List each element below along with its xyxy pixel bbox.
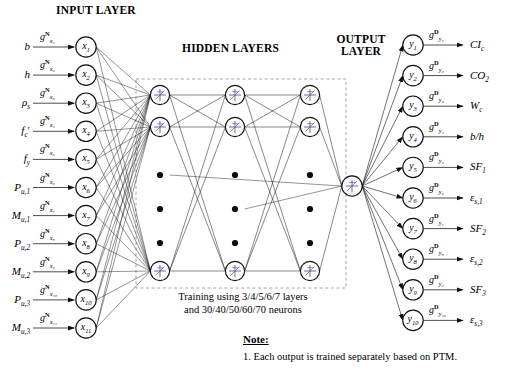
hidden-layer-header: HIDDEN LAYERS [182,42,279,54]
input-neuron-9: x9 [82,266,90,279]
hidden-layer-dashed-boundary [136,79,346,288]
input-source-label-4: fc′ [0,125,30,139]
input-source-label-3: ρs [0,97,30,111]
input-neuron-4: x4 [82,125,90,138]
output-neuron-2: y2 [409,69,417,82]
input-gain-label-4: gNx₄ [40,115,55,129]
output-gain-label-9: gDy₉ [429,274,444,288]
input-source-label-8: Pu,2 [0,238,30,252]
output-gain-label-4: gDy₄ [429,121,444,135]
input-neuron-6: x6 [82,181,90,194]
hidden-layer-caption: Training using 3/4/5/6/7 layers and 30/4… [143,290,343,316]
output-neuron-1: y1 [409,39,417,52]
output-target-label-3: Wc [470,100,482,114]
output-target-label-5: SF1 [470,161,486,175]
output-header-line-1: OUTPUT [336,33,385,45]
output-header-line-2: LAYER [341,45,381,57]
input-neuron-5: x5 [82,153,90,166]
output-neuron-5: y5 [409,161,417,174]
input-source-label-9: Mu,2 [0,266,30,280]
output-target-label-2: CO2 [470,70,489,84]
input-source-label-11: Mu,3 [0,322,30,336]
input-gain-label-11: gNx₁₁ [40,312,57,326]
output-gain-label-10: gDy₁₀ [429,304,446,318]
output-layer-header: OUTPUT LAYER [330,33,392,57]
output-target-label-9: SF3 [470,284,486,298]
output-target-label-1: CIc [470,39,484,53]
output-gain-label-8: gDy₈ [429,243,444,257]
output-neuron-8: y8 [409,253,417,266]
output-neuron-3: y3 [409,100,417,113]
input-gain-label-6: gNx₆ [40,172,55,186]
input-source-label-6: Pu,1 [0,182,30,196]
input-neuron-2: x2 [82,69,90,82]
output-gain-label-5: gDy₅ [429,151,444,165]
note-block: Note: 1. Each output is trained separate… [243,333,505,362]
input-neuron-10: x10 [80,294,91,307]
output-target-label-8: εs,2 [470,253,483,267]
input-neuron-7: x7 [82,209,90,222]
input-neuron-1: x1 [82,41,90,54]
output-neuron-7: y7 [409,222,417,235]
output-gain-label-6: gDy₆ [429,182,444,196]
output-neuron-4: y4 [409,131,417,144]
input-gain-label-8: gNx₈ [40,228,55,242]
input-to-hidden-edges [96,47,150,328]
output-target-label-6: εs,1 [470,192,483,206]
input-layer-header: INPUT LAYER [56,4,136,16]
input-source-label-10: Pu,3 [0,294,30,308]
output-target-label-4: b/h [470,131,484,142]
hidden-ellipsis-dots [157,172,313,246]
output-gain-label-1: gDy₁ [429,29,444,43]
note-title: Note: [243,333,505,345]
output-gain-label-7: gDy₇ [429,213,444,227]
output-target-label-10: εs,3 [470,314,483,328]
aggregator-neuron [342,176,362,196]
output-gain-label-2: gDy₂ [429,60,444,74]
input-neuron-3: x3 [82,97,90,110]
input-source-label-1: b [0,41,30,52]
input-gain-label-10: gNx₁₀ [40,284,57,298]
input-neuron-11: x11 [81,322,92,335]
input-neuron-8: x8 [82,237,90,250]
input-gain-label-7: gNx₇ [40,200,55,214]
aggregator-to-output-edges [362,45,403,320]
diagram-canvas: INPUT LAYER HIDDEN LAYERS OUTPUT LAYER b… [0,0,511,373]
input-gain-label-3: gNx₃ [40,87,55,101]
input-gain-label-2: gNx₂ [40,59,55,73]
input-source-label-2: h [0,69,30,80]
training-caption-line-2: and 30/40/50/60/70 neurons [143,303,343,316]
note-item-1: 1. Each output is trained separately bas… [243,351,505,362]
output-target-label-7: SF2 [470,223,486,237]
output-neuron-9: y9 [409,284,417,297]
output-gain-label-3: gDy₃ [429,90,444,104]
training-caption-line-1: Training using 3/4/5/6/7 layers [143,290,343,303]
input-gain-label-5: gNx₅ [40,143,55,157]
output-neuron-10: y10 [407,314,418,327]
output-neuron-6: y6 [409,192,417,205]
input-source-label-5: fy [0,153,30,167]
input-source-label-7: Mu,1 [0,210,30,224]
input-gain-label-1: gNx₁ [40,31,55,45]
input-gain-label-9: gNx₉ [40,256,55,270]
